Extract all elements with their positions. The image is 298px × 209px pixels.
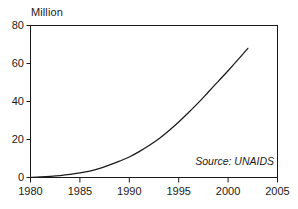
x-axis-label-2000: 2000 <box>208 185 248 197</box>
y-axis-label-40: 40 <box>0 95 24 107</box>
x-axis-ticks <box>31 178 278 183</box>
x-axis-label-1980: 1980 <box>11 185 51 197</box>
line-chart <box>0 0 298 209</box>
y-axis-label-0: 0 <box>0 171 24 183</box>
y-axis-label-80: 80 <box>0 19 24 31</box>
chart-container: Million 0 20 40 60 80 1980 1985 1990 199… <box>0 0 298 209</box>
y-axis-label-60: 60 <box>0 57 24 69</box>
y-axis-label-20: 20 <box>0 133 24 145</box>
x-axis-label-2005: 2005 <box>258 185 298 197</box>
y-axis-unit-label: Million <box>31 6 63 18</box>
x-axis-label-1985: 1985 <box>60 185 100 197</box>
x-axis-label-1990: 1990 <box>109 185 149 197</box>
y-axis-ticks <box>27 26 31 178</box>
source-annotation: Source: UNAIDS <box>195 155 274 167</box>
x-axis-label-1995: 1995 <box>159 185 199 197</box>
